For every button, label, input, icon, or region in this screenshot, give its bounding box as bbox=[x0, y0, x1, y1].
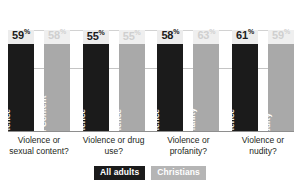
bar-value-label: 59% bbox=[8, 28, 34, 41]
legend-item-christians[interactable]: Christians bbox=[151, 166, 206, 180]
bar-fill: Violence bbox=[8, 44, 34, 131]
bar-inner-label: Violence bbox=[8, 109, 21, 131]
bar-group: 61% Violence 59% Nudity bbox=[232, 22, 294, 132]
bar-value-label: 61% bbox=[232, 28, 258, 41]
bar-value-label: 59% bbox=[268, 28, 294, 41]
grouped-bar-chart: 59% Violence 58% Sexual Content bbox=[0, 0, 300, 183]
bar-fill: Violence bbox=[157, 44, 183, 131]
bar-inner-label: Sexual Content bbox=[44, 95, 57, 131]
bar-fill: Profanity bbox=[193, 44, 219, 131]
bar-group: 55% Violence 55% Violence bbox=[83, 22, 145, 132]
plot-area: 59% Violence 58% Sexual Content bbox=[0, 22, 300, 132]
bar-column-all-adults[interactable]: 58% Violence bbox=[157, 30, 183, 131]
bar-groups: 59% Violence 58% Sexual Content bbox=[8, 22, 294, 132]
category-label: Violence or sexual content? bbox=[8, 135, 70, 157]
bar-column-christians[interactable]: 59% Nudity bbox=[268, 30, 294, 131]
bar-fill: Violence bbox=[83, 44, 109, 131]
bar-fill: Sexual Content bbox=[44, 44, 70, 131]
bar-column-all-adults[interactable]: 55% Violence bbox=[83, 30, 109, 131]
bar-group: 59% Violence 58% Sexual Content bbox=[8, 22, 70, 132]
bar-fill: Nudity bbox=[268, 44, 294, 131]
legend-item-all-adults[interactable]: All adults bbox=[94, 166, 145, 180]
bar-value-label: 58% bbox=[44, 28, 70, 41]
bar-inner-label: Violence bbox=[232, 109, 245, 131]
bar-column-all-adults[interactable]: 61% Violence bbox=[232, 30, 258, 131]
bar-column-christians[interactable]: 55% Violence bbox=[119, 30, 145, 131]
bar-inner-label: Violence bbox=[119, 109, 132, 131]
bar-inner-label: Violence bbox=[83, 109, 96, 131]
bar-group: 58% Violence 63% Profanity bbox=[157, 22, 219, 132]
category-label: Violence or nudity? bbox=[232, 135, 294, 157]
bar-value-label: 55% bbox=[119, 29, 145, 42]
bar-value-label: 58% bbox=[157, 28, 183, 41]
category-axis-labels: Violence or sexual content? Violence or … bbox=[8, 135, 294, 157]
bar-fill: Violence bbox=[119, 44, 145, 131]
bar-column-christians[interactable]: 58% Sexual Content bbox=[44, 30, 70, 131]
category-label: Violence or drug use? bbox=[83, 135, 145, 157]
bar-value-label: 55% bbox=[83, 29, 109, 42]
bar-fill: Violence bbox=[232, 44, 258, 131]
bar-column-christians[interactable]: 63% Profanity bbox=[193, 30, 219, 131]
bar-column-all-adults[interactable]: 59% Violence bbox=[8, 30, 34, 131]
bar-inner-label: Nudity bbox=[268, 113, 281, 131]
chart-legend: All adults Christians bbox=[0, 166, 300, 180]
bar-inner-label: Violence bbox=[157, 109, 170, 131]
bar-value-label: 63% bbox=[193, 28, 219, 41]
bar-inner-label: Profanity bbox=[193, 108, 206, 131]
category-label: Violence or profanity? bbox=[157, 135, 219, 157]
